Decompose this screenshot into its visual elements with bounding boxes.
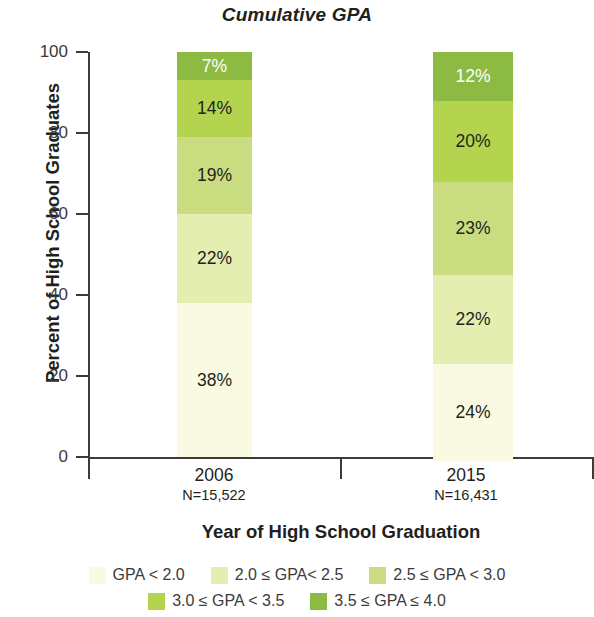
bar-segment[interactable]: 22% (177, 214, 252, 303)
y-tick-mark (76, 456, 88, 458)
x-category-label: 2006N=15,522 (88, 464, 340, 505)
legend-row-2: 3.0 ≤ GPA < 3.53.5 ≤ GPA ≤ 4.0 (0, 588, 594, 614)
legend-label: 3.0 ≤ GPA < 3.5 (172, 588, 284, 614)
bar-segment[interactable]: 23% (433, 182, 513, 275)
y-tick-label: 20 (0, 366, 68, 386)
y-tick-mark (76, 213, 88, 215)
legend-swatch-icon (369, 567, 386, 584)
bar-segment[interactable]: 38% (177, 303, 252, 457)
legend-swatch-icon (310, 593, 327, 610)
chart-title: Cumulative GPA (0, 4, 594, 26)
y-tick-mark (76, 51, 88, 53)
legend-swatch-icon (211, 567, 228, 584)
x-category-year: 2015 (340, 464, 592, 486)
bar-2006[interactable]: 7%14%19%22%38% (177, 52, 252, 457)
legend-item[interactable]: GPA < 2.0 (89, 562, 185, 588)
x-category-sample-size: N=15,522 (88, 486, 340, 505)
x-category-label: 2015N=16,431 (340, 464, 592, 505)
bar-segment[interactable]: 19% (177, 137, 252, 214)
bar-segment[interactable]: 7% (177, 52, 252, 80)
legend-item[interactable]: 3.0 ≤ GPA < 3.5 (148, 588, 284, 614)
legend-item[interactable]: 2.5 ≤ GPA < 3.0 (369, 562, 505, 588)
y-tick-label: 80 (0, 123, 68, 143)
legend-row-1: GPA < 2.02.0 ≤ GPA< 2.52.5 ≤ GPA < 3.0 (0, 562, 594, 588)
legend-label: GPA < 2.0 (113, 562, 185, 588)
y-tick-mark (76, 294, 88, 296)
x-axis-title: Year of High School Graduation (88, 521, 594, 543)
x-category-year: 2006 (88, 464, 340, 486)
legend-item[interactable]: 2.0 ≤ GPA< 2.5 (211, 562, 344, 588)
legend-item[interactable]: 3.5 ≤ GPA ≤ 4.0 (310, 588, 446, 614)
bar-segment[interactable]: 22% (433, 275, 513, 364)
y-tick-label: 0 (0, 447, 68, 467)
plot-area: 7%14%19%22%38% 12%20%23%22%24% (88, 52, 588, 457)
legend-label: 2.5 ≤ GPA < 3.0 (393, 562, 505, 588)
y-tick-label: 40 (0, 285, 68, 305)
legend-label: 3.5 ≤ GPA ≤ 4.0 (334, 588, 446, 614)
legend: GPA < 2.02.0 ≤ GPA< 2.52.5 ≤ GPA < 3.0 3… (0, 562, 594, 614)
bar-2015[interactable]: 12%20%23%22%24% (433, 52, 513, 457)
legend-swatch-icon (89, 567, 106, 584)
y-tick-mark (76, 132, 88, 134)
bar-segment[interactable]: 20% (433, 101, 513, 182)
bar-segment[interactable]: 12% (433, 52, 513, 101)
legend-label: 2.0 ≤ GPA< 2.5 (235, 562, 344, 588)
legend-swatch-icon (148, 593, 165, 610)
bar-segment[interactable]: 24% (433, 364, 513, 461)
x-category-sample-size: N=16,431 (340, 486, 592, 505)
y-tick-label: 60 (0, 204, 68, 224)
y-tick-label: 100 (0, 42, 68, 62)
bar-segment[interactable]: 14% (177, 80, 252, 137)
y-tick-mark (76, 375, 88, 377)
